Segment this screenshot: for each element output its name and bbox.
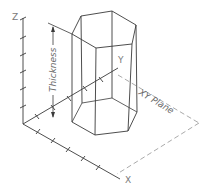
prism-bottom-face bbox=[72, 112, 137, 135]
x-axis-label: X bbox=[125, 175, 131, 185]
y-axis-label: Y bbox=[117, 55, 124, 65]
diagram-canvas: Z Y X bbox=[0, 0, 209, 190]
xy-plane-outline bbox=[117, 75, 199, 174]
thickness-arrow-top bbox=[51, 26, 55, 32]
z-axis-label: Z bbox=[12, 12, 18, 22]
x-axis bbox=[23, 124, 120, 179]
hexagonal-prism bbox=[72, 11, 137, 135]
xy-plane-label: XY Plane bbox=[136, 87, 176, 117]
thickness-extension-top bbox=[48, 23, 72, 34]
thickness-label: Thickness bbox=[48, 47, 58, 92]
thickness-arrow-bottom bbox=[51, 112, 55, 118]
z-axis bbox=[20, 17, 26, 124]
y-axis bbox=[23, 68, 118, 124]
